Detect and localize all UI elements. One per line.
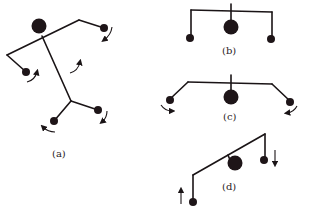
rotation-arrow-icon <box>161 105 172 111</box>
panel-a: (a) <box>7 19 112 160</box>
rotation-arrow-icon <box>287 106 297 113</box>
ball-right <box>260 156 268 164</box>
ball-lower-left <box>50 117 58 125</box>
panel-b: (b) <box>186 4 275 56</box>
panel-label-b: (b) <box>222 45 236 56</box>
panel-c: (c) <box>161 75 297 122</box>
mobile-diagram: (a) (b) (c) (d) <box>0 0 311 213</box>
ball-left <box>22 68 30 76</box>
large-ball <box>224 90 239 105</box>
left-arm <box>170 82 188 99</box>
panel-label-a: (a) <box>52 148 66 159</box>
ball-lower-right <box>94 106 102 114</box>
tilted-bar <box>193 134 265 175</box>
ball-left <box>189 198 197 206</box>
large-ball <box>224 20 239 35</box>
ball-right <box>267 35 275 43</box>
rotation-arrow-icon <box>70 62 80 73</box>
main-rod <box>42 36 71 101</box>
rotation-arrow-icon <box>102 111 107 122</box>
panel-label-c: (c) <box>223 111 237 122</box>
ball-top-right <box>100 24 108 32</box>
top-bar <box>188 82 272 84</box>
large-ball <box>32 19 47 34</box>
large-ball <box>228 156 243 171</box>
right-arm <box>272 84 290 101</box>
panel-label-d: (d) <box>222 181 236 192</box>
panel-d: (d) <box>181 134 275 206</box>
rotation-arrow-icon <box>43 127 55 132</box>
ball-left <box>186 34 194 42</box>
ball-left <box>166 96 174 104</box>
ball-right <box>286 98 294 106</box>
left-arm <box>7 55 25 71</box>
lower-right-arm <box>71 101 98 110</box>
